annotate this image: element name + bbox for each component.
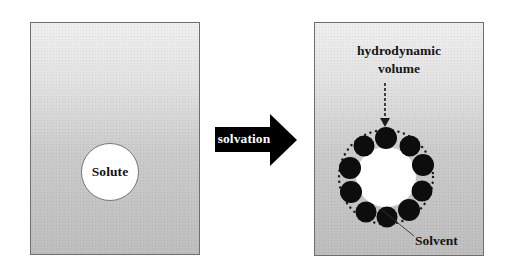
solvation-label: solvation — [216, 129, 272, 149]
hydrodynamic-label-line1: hydrodynamic — [314, 42, 484, 60]
solvation-diagram: Solute solvation hydrodynamic volume — [0, 0, 514, 274]
solute-circle: Solute — [81, 143, 139, 201]
hydrodynamic-pointer-arrow-icon — [380, 83, 390, 127]
solvent-label: Solvent — [415, 233, 458, 249]
solute-panel — [30, 22, 200, 255]
solute-label: Solute — [92, 164, 129, 180]
hydrodynamic-label-line2: volume — [314, 60, 484, 78]
hydrodynamic-volume-label: hydrodynamic volume — [314, 42, 484, 78]
